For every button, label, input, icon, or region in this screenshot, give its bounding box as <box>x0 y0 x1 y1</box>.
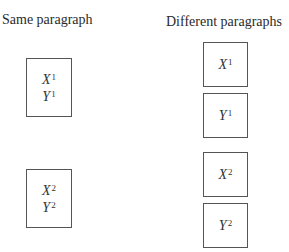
same-paragraph-box-2: X2 Y2 <box>26 169 72 228</box>
line-x1: X1 <box>42 71 56 88</box>
line-y1: Y1 <box>42 88 55 105</box>
line-y2: Y2 <box>42 199 55 216</box>
different-paragraph-box-x1: X1 <box>203 42 248 87</box>
different-paragraphs-heading: Different paragraphs <box>166 14 282 30</box>
different-paragraph-box-y1: Y1 <box>203 93 248 138</box>
same-paragraph-heading: Same paragraph <box>2 12 93 28</box>
different-paragraph-box-x2: X2 <box>203 152 248 197</box>
line-x2: X2 <box>42 182 56 199</box>
different-paragraph-box-y2: Y2 <box>203 203 248 248</box>
same-paragraph-box-1: X1 Y1 <box>26 58 72 117</box>
